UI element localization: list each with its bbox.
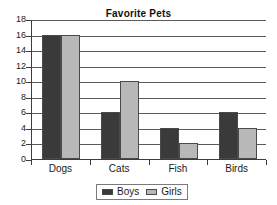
- x-axis-tick-label: Birds: [207, 163, 266, 174]
- bar-group: [91, 19, 150, 159]
- y-axis-tick-label: 8: [0, 92, 26, 102]
- legend-label: Boys: [117, 186, 139, 197]
- legend-item-girls: Girls: [146, 186, 182, 197]
- bar-group: [150, 19, 209, 159]
- bar-chart: Favorite Pets 024681012141618 DogsCatsFi…: [0, 0, 277, 205]
- y-axis-tick-label: 12: [0, 61, 26, 71]
- legend-item-boys: Boys: [102, 186, 139, 197]
- bar-fish-girls: [179, 143, 198, 159]
- x-axis-tick-mark: [266, 160, 267, 165]
- y-axis-tick-label: 4: [0, 123, 26, 133]
- y-axis-tick-label: 2: [0, 138, 26, 148]
- bar-group: [32, 19, 91, 159]
- legend-label: Girls: [161, 186, 182, 197]
- y-axis-tick-label: 6: [0, 107, 26, 117]
- y-axis-tick-label: 14: [0, 45, 26, 55]
- plot-area: [31, 20, 266, 160]
- x-axis-tick-mark: [90, 160, 91, 165]
- y-axis-tick-label: 0: [0, 154, 26, 164]
- bar-birds-boys: [219, 112, 238, 159]
- y-axis-tick-label: 16: [0, 30, 26, 40]
- bar-group: [208, 19, 267, 159]
- x-axis-tick-mark: [149, 160, 150, 165]
- x-axis-tick-mark: [207, 160, 208, 165]
- chart-title: Favorite Pets: [0, 8, 277, 19]
- legend-swatch-icon: [102, 189, 113, 195]
- bar-dogs-girls: [61, 35, 80, 159]
- chart-legend: BoysGirls: [96, 184, 188, 200]
- y-axis-tick-label: 10: [0, 76, 26, 86]
- bar-cats-girls: [120, 81, 139, 159]
- x-axis-tick-mark: [31, 160, 32, 165]
- legend-swatch-icon: [146, 189, 157, 195]
- bar-dogs-boys: [42, 35, 61, 159]
- bar-fish-boys: [160, 128, 179, 159]
- x-axis-tick-label: Dogs: [31, 163, 90, 174]
- bar-birds-girls: [238, 128, 257, 159]
- x-axis-tick-label: Cats: [90, 163, 149, 174]
- y-axis: 024681012141618: [0, 0, 28, 205]
- x-axis-tick-label: Fish: [149, 163, 208, 174]
- y-axis-tick-label: 18: [0, 14, 26, 24]
- bar-cats-boys: [101, 112, 120, 159]
